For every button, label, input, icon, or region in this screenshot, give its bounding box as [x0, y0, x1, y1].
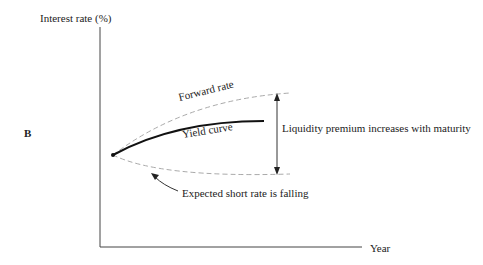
pointer-arrow [155, 177, 178, 191]
start-point [111, 153, 115, 157]
panel-label: B [24, 127, 31, 139]
y-axis-label: Interest rate (%) [40, 12, 111, 24]
liquidity-premium-label: Liquidity premium increases with maturit… [282, 122, 471, 134]
expected-short-rate-label: Expected short rate is falling [182, 187, 308, 199]
x-axis-label: Year [370, 242, 390, 254]
expected-short-rate-curve [113, 155, 290, 175]
